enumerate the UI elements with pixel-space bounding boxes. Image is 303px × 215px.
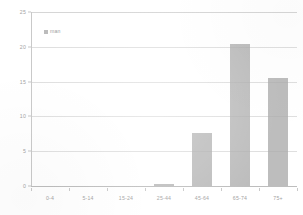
bar-slot-5-14 [69,12,107,186]
bar-series-man [31,12,297,186]
y-tick-label-25: 25 [20,9,26,15]
x-tick-mark-1 [69,188,70,191]
x-tick-label-65-74: 65-74 [233,195,247,201]
y-tick-label-15: 15 [20,79,26,85]
x-tick-label-0-4: 0-4 [46,195,54,201]
bar-45-64[interactable] [192,133,212,186]
x-tick-mark-3 [145,188,146,191]
bar-75plus[interactable] [268,78,288,186]
x-tick-label-15-24: 15-24 [119,195,133,201]
y-tick-label-5: 5 [23,148,26,154]
bar-65-74[interactable] [230,44,250,186]
x-tick-mark-6 [259,188,260,191]
bar-slot-15-24 [107,12,145,186]
bar-slot-0-4 [31,12,69,186]
x-tick-label-45-64: 45-64 [195,195,209,201]
y-axis-labels: 25 20 15 10 5 0 [0,0,31,215]
x-tick-mark-4 [183,188,184,191]
bar-25-44[interactable] [154,184,174,186]
x-tick-mark-0 [31,188,32,191]
y-tick-label-10: 10 [20,113,26,119]
bar-slot-75plus [259,12,297,186]
x-axis-line [31,186,297,187]
x-tick-mark-7 [297,188,298,191]
y-tick-label-0: 0 [23,183,26,189]
y-tick-label-20: 20 [20,44,26,50]
x-tick-label-5-14: 5-14 [82,195,93,201]
bar-slot-45-64 [183,12,221,186]
x-tick-label-75plus: 75+ [273,195,282,201]
x-tick-label-25-44: 25-44 [157,195,171,201]
bar-slot-65-74 [221,12,259,186]
bar-slot-25-44 [145,12,183,186]
bar-chart: 25 20 15 10 5 0 man [0,0,303,215]
x-tick-mark-2 [107,188,108,191]
x-axis-labels: 0-4 5-14 15-24 25-44 45-64 65-74 75+ [31,188,297,215]
x-tick-mark-5 [221,188,222,191]
